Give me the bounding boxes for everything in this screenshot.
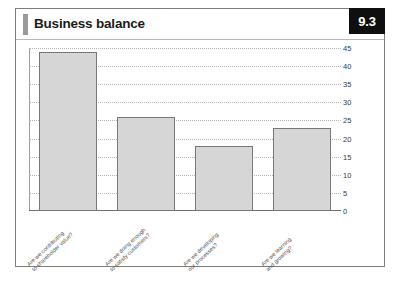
x-axis-category-text: Are we contributingto shareholder value? <box>26 215 87 273</box>
status-badge: 9.3 <box>349 8 385 34</box>
plot-area: 051015202530354045 <box>29 48 341 211</box>
x-axis-category-text: Are we doing enoughto satisfy customers? <box>104 215 165 273</box>
y-axis-tick-label: 30 <box>343 98 373 107</box>
y-axis-tick-label: 25 <box>343 116 373 125</box>
x-axis-labels: Are we contributingto shareholder value?… <box>29 211 341 268</box>
y-axis-tick-label: 20 <box>343 134 373 143</box>
y-axis-tick-label: 40 <box>343 62 373 71</box>
y-axis-tick-label: 15 <box>343 152 373 161</box>
bar <box>195 146 253 211</box>
chart-body: 051015202530354045 Are we contributingto… <box>16 40 386 268</box>
gridline <box>29 48 341 49</box>
y-axis-tick-label: 35 <box>343 80 373 89</box>
bar <box>39 52 97 211</box>
bar <box>273 128 331 211</box>
x-axis-category-text: Are we developingour processes? <box>182 215 243 273</box>
y-axis-tick-label: 5 <box>343 188 373 197</box>
x-axis-category-text: Are we learningand growing? <box>260 215 321 273</box>
header-accent-bar <box>23 14 28 35</box>
page-title: Business balance <box>34 16 145 31</box>
y-axis-line <box>29 48 30 211</box>
y-axis-tick-label: 0 <box>343 207 373 216</box>
card-header: Business balance 9.3 <box>16 9 384 40</box>
chart-card: Business balance 9.3 051015202530354045 … <box>15 8 385 267</box>
screenshot-canvas: Business balance 9.3 051015202530354045 … <box>0 0 400 283</box>
y-axis-tick-label: 45 <box>343 44 373 53</box>
bar <box>117 117 175 211</box>
y-axis-tick-label: 10 <box>343 170 373 179</box>
